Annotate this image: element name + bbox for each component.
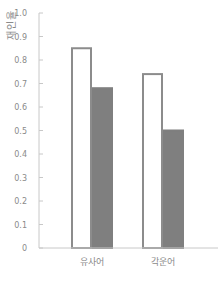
bar-series-2 — [93, 88, 112, 248]
y-tick-label: 0 — [22, 244, 27, 253]
bar-series-1 — [143, 74, 162, 248]
y-tick-label: 0.6 — [14, 103, 27, 112]
x-category-label: 유사어 — [80, 257, 104, 267]
bar-series-1 — [72, 48, 91, 248]
bars — [72, 48, 183, 248]
y-tick-label: 0.8 — [14, 56, 27, 65]
x-category-label: 각운어 — [151, 256, 175, 267]
y-tick-label: 0.3 — [14, 174, 27, 183]
y-axis: 00.10.20.30.40.50.60.70.80.91.0 — [14, 9, 43, 253]
y-tick-label: 0.4 — [14, 150, 27, 159]
y-tick-label: 0.5 — [14, 127, 27, 136]
y-tick-label: 0.9 — [14, 33, 27, 42]
y-tick-label: 0.1 — [14, 221, 27, 230]
x-axis: 유사어각운어 — [39, 248, 218, 267]
bar-chart: 00.10.20.30.40.50.60.70.80.91.0 유사어각운어 — [0, 0, 224, 281]
bar-series-2 — [164, 131, 183, 249]
y-tick-label: 1.0 — [14, 9, 27, 18]
y-tick-label: 0.7 — [14, 80, 27, 89]
y-tick-label: 0.2 — [14, 197, 27, 206]
